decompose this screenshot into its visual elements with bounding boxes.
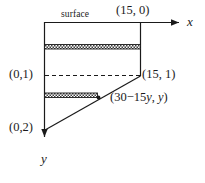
- lower-strip-element: [45, 93, 98, 98]
- surface-label: surface: [61, 10, 89, 20]
- upper-strip-element: [45, 45, 141, 50]
- generic-coef: 15: [134, 90, 147, 104]
- point-label-generic: (30−15y, y): [110, 91, 168, 104]
- generic-point-marker: [97, 96, 101, 100]
- point-label-0-2: (0,2): [9, 121, 33, 134]
- point-label-15-0: (15, 0): [116, 4, 149, 17]
- generic-post: ): [164, 90, 168, 104]
- diagram-canvas: [0, 0, 205, 183]
- y-axis-label: y: [41, 152, 47, 165]
- point-label-0-1: (0,1): [9, 68, 33, 81]
- water-tank-cross-section-diagram: surface (15, 0) (0,1) (15, 1) (0,2) (30−…: [0, 0, 205, 183]
- generic-minus: −: [127, 90, 134, 104]
- x-axis-label: x: [187, 15, 193, 28]
- generic-pre: (30: [110, 90, 127, 104]
- point-label-15-1: (15, 1): [142, 68, 175, 81]
